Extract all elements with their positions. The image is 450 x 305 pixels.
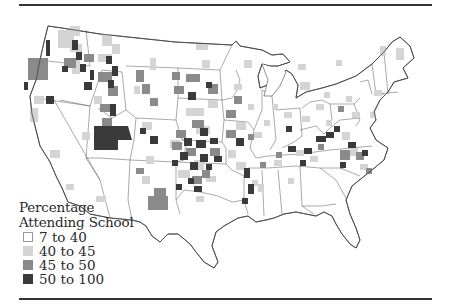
us-outline bbox=[30, 26, 414, 268]
map-legend: Percentage Attending School 7 to 40 40 t… bbox=[19, 200, 134, 230]
legend-item: 7 to 40 bbox=[23, 230, 87, 244]
swatch-40-to-45 bbox=[23, 246, 33, 256]
legend-label: 50 to 100 bbox=[39, 272, 104, 287]
legend-title-line2: Attending School bbox=[19, 215, 134, 230]
legend-item: 50 to 100 bbox=[23, 272, 104, 286]
swatch-7-to-40 bbox=[23, 232, 33, 242]
swatch-50-to-100 bbox=[23, 274, 33, 284]
legend-title-line1: Percentage bbox=[19, 200, 134, 215]
swatch-45-to-50 bbox=[23, 260, 33, 270]
legend-item: 45 to 50 bbox=[23, 258, 96, 272]
bottom-rule bbox=[19, 298, 432, 300]
legend-item: 40 to 45 bbox=[23, 244, 96, 258]
